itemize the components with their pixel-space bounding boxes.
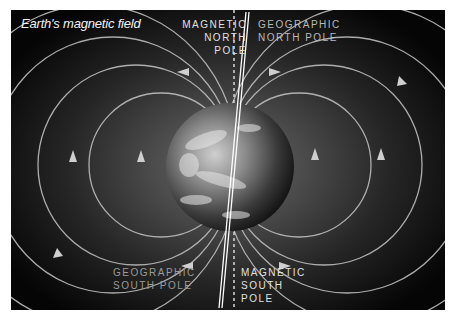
diagram-panel: Earth's magnetic field Magnetic North Po… — [11, 10, 445, 310]
label-line: South — [241, 279, 306, 292]
label-geographic-south-pole: Geographic South Pole — [113, 266, 196, 292]
label-geographic-north-pole: Geographic North Pole — [258, 18, 341, 44]
label-line: South Pole — [113, 279, 196, 292]
label-line: North — [155, 31, 247, 44]
label-line: Magnetic — [155, 18, 247, 31]
label-line: North Pole — [258, 31, 341, 44]
diagram-title: Earth's magnetic field — [21, 16, 140, 31]
label-line: Geographic — [258, 18, 341, 31]
label-line: Pole — [155, 44, 247, 57]
label-magnetic-north-pole: Magnetic North Pole — [155, 18, 247, 57]
label-magnetic-south-pole: Magnetic South Pole — [241, 266, 306, 305]
label-line: Pole — [241, 292, 306, 305]
label-line: Magnetic — [241, 266, 306, 279]
label-line: Geographic — [113, 266, 196, 279]
